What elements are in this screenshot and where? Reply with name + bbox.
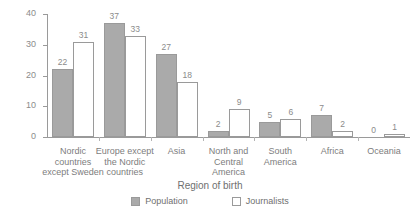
bar-journalists [125,36,146,137]
chart-legend: PopulationJournalists [0,197,420,206]
bar-value-label: 27 [156,43,177,52]
bar-value-label: 5 [259,111,280,120]
bar-journalists [73,42,94,137]
x-axis-separator [254,137,255,141]
bar-chart: 010203040 22313733271829567201 Nordic co… [0,0,420,218]
y-axis-tick-label: 30 [10,40,36,49]
x-axis-line [47,137,410,138]
y-axis-tick-label: 0 [10,132,36,141]
bar-value-label: 7 [311,104,332,113]
bar-value-label: 18 [177,71,198,80]
bar-population [52,69,73,137]
bar-value-label: 37 [104,12,125,21]
x-axis-title: Region of birth [0,180,420,191]
bar-population [104,23,125,137]
bar-value-label: 33 [125,25,146,34]
bar-value-label: 6 [280,108,301,117]
plot-area: 22313733271829567201 [47,14,410,137]
bar-value-label: 2 [208,120,229,129]
bar-population [208,131,229,137]
bar-population [156,54,177,137]
y-axis-tick-label: 20 [10,71,36,80]
legend-label: Population [145,197,188,206]
legend-item-population[interactable]: Population [131,197,188,206]
bar-journalists [229,109,250,137]
y-axis-tick [43,137,48,138]
bar-population [311,115,332,137]
x-axis-separator [358,137,359,141]
bar-value-label: 0 [363,126,384,135]
legend-swatch-icon [232,197,241,206]
bar-value-label: 1 [384,123,405,132]
x-axis-separator [203,137,204,141]
x-axis-category-label: Oceania [352,146,416,157]
bar-journalists [280,119,301,137]
x-axis-separator [306,137,307,141]
bar-value-label: 9 [229,98,250,107]
bar-value-label: 2 [332,120,353,129]
x-axis-separator [99,137,100,141]
y-axis-tick-label: 40 [10,9,36,18]
x-axis-separator [151,137,152,141]
bar-journalists [177,82,198,137]
bar-value-label: 22 [52,58,73,67]
bar-value-label: 31 [73,31,94,40]
bar-journalists [332,131,353,137]
legend-item-journalists[interactable]: Journalists [232,197,289,206]
legend-swatch-icon [131,197,140,206]
bar-population [259,122,280,137]
legend-label: Journalists [246,197,289,206]
bar-journalists [384,134,405,137]
y-axis-tick-label: 10 [10,101,36,110]
